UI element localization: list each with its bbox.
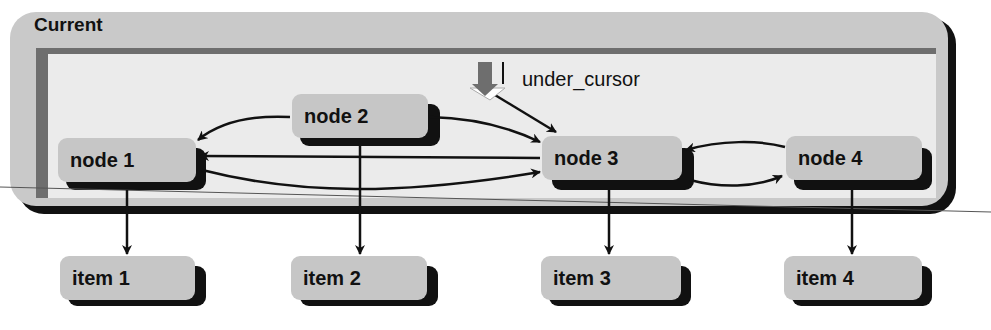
edges-layer: [0, 0, 991, 330]
edge-node4-node3: [686, 142, 785, 150]
edge-node3-node1: [200, 156, 540, 158]
edge-node3-node4: [690, 176, 782, 186]
stray-line: [0, 187, 991, 212]
down-arrow-cursor-icon: [470, 62, 505, 100]
edge-node2-node1: [198, 117, 290, 140]
edge-node2-node3: [430, 117, 540, 142]
edge-node1-node3: [202, 170, 540, 189]
